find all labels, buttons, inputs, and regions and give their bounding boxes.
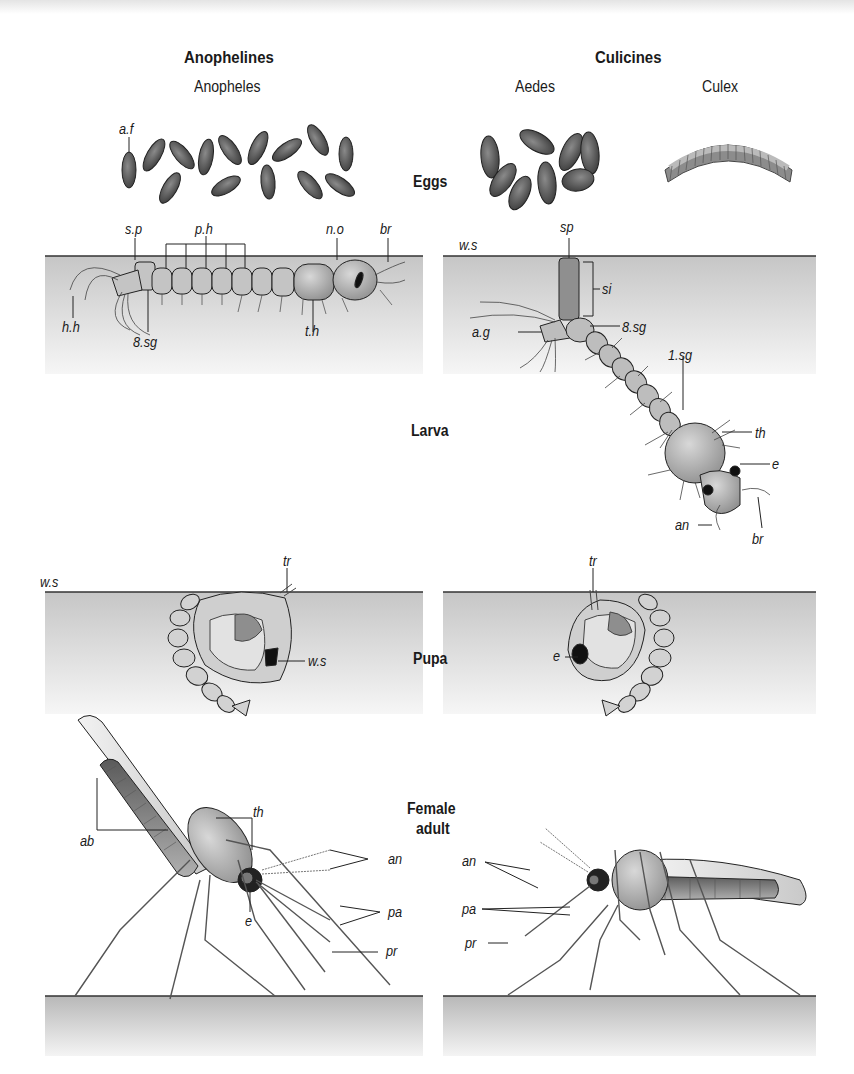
lifecycle-illustration — [0, 0, 854, 1074]
label-adult-c-pa: pa — [462, 900, 476, 917]
genus-anopheles: Anopheles — [194, 78, 261, 96]
label-larva-c-th: th — [755, 424, 766, 441]
anopheles-adult — [75, 715, 390, 999]
label-adult-ab: ab — [80, 832, 94, 849]
label-pupa-c-tr: tr — [589, 552, 597, 569]
label-larva-e: e — [772, 455, 779, 472]
label-pupa-e: e — [553, 647, 560, 664]
label-af: a.f — [119, 120, 133, 137]
label-pupa-tr: tr — [283, 552, 291, 569]
stage-pupa: Pupa — [413, 650, 447, 668]
label-larva-8sg: 8.sg — [133, 333, 157, 350]
label-adult-c-pr: pr — [465, 934, 476, 951]
label-larva-no: n.o — [326, 220, 344, 237]
genus-aedes: Aedes — [515, 78, 555, 96]
label-adult-an: an — [388, 850, 402, 867]
label-larva-br: br — [380, 220, 391, 237]
culicine-adult — [508, 828, 806, 995]
label-larva-c-8sg: 8.sg — [622, 318, 646, 335]
culex-egg-raft — [665, 144, 792, 182]
aedes-eggs — [479, 125, 601, 213]
header-culicines: Culicines — [595, 48, 662, 68]
label-larva-sp: s.p — [125, 220, 142, 237]
label-larva-th: t.h — [305, 322, 319, 339]
label-larva-1sg: 1.sg — [668, 346, 692, 363]
stage-larva: Larva — [411, 422, 449, 440]
label-adult-e: e — [245, 912, 252, 929]
label-larva-c-sp: sp — [560, 218, 573, 235]
stage-adult-line1: Female — [407, 800, 456, 818]
label-pupa-ws: w.s — [308, 652, 326, 669]
label-larva-hh: h.h — [62, 318, 80, 335]
ground-left — [45, 996, 423, 1056]
genus-culex: Culex — [702, 78, 738, 96]
label-adult-pa: pa — [388, 903, 402, 920]
header-anophelines: Anophelines — [184, 48, 274, 68]
label-adult-pr: pr — [386, 942, 397, 959]
label-adult-th: th — [253, 803, 264, 820]
ground-right — [443, 996, 816, 1056]
label-larva-si: si — [602, 280, 611, 297]
label-larva-ag: a.g — [472, 323, 490, 340]
label-larva-ws: w.s — [459, 236, 477, 253]
label-larva-ph: p.h — [195, 220, 213, 237]
anopheles-eggs — [122, 122, 358, 206]
label-larva-c-br: br — [752, 530, 763, 547]
label-pupa-ws-surface: w.s — [40, 573, 58, 590]
stage-eggs: Eggs — [413, 173, 447, 191]
adult-right-leaders — [482, 862, 570, 943]
label-larva-an: an — [675, 516, 689, 533]
label-adult-c-an: an — [462, 852, 476, 869]
stage-adult-line2: adult — [416, 820, 450, 838]
